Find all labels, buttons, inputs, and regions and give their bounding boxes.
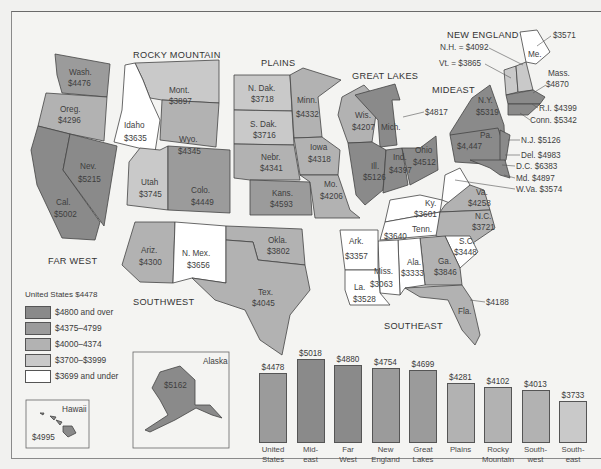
- label-wis: Wis.: [355, 111, 371, 120]
- bar: [409, 370, 437, 443]
- value-wis: $4207: [352, 123, 375, 132]
- value-ind: $4397: [389, 166, 412, 175]
- label-ohio: Ohio: [415, 146, 433, 155]
- value-ga: $3846: [434, 268, 457, 277]
- legend-label: $3699 and under: [55, 371, 118, 381]
- label-mass: Mass.: [548, 69, 570, 78]
- region-far-west: FAR WEST: [48, 256, 97, 266]
- state-ndak: [234, 75, 292, 111]
- region-mideast: MIDEAST: [432, 85, 475, 95]
- label-idaho: Idaho: [124, 121, 145, 130]
- bar-column: $3733: [555, 391, 591, 443]
- bar-column: $4281: [443, 373, 479, 443]
- value-ky: $3601: [414, 210, 437, 219]
- label-utah: Utah: [141, 178, 159, 187]
- label-ndak: N. Dak.: [248, 84, 275, 93]
- label-ark: Ark.: [349, 237, 364, 246]
- label-iowa: Iowa: [310, 143, 328, 152]
- value-miss: $3063: [370, 280, 393, 289]
- map-legend: United States $4478 $4800 and over $4375…: [25, 290, 118, 384]
- region-southwest: SOUTHWEST: [133, 297, 194, 307]
- state-ark: [340, 230, 378, 270]
- state-alaska: [145, 366, 222, 432]
- legend-item: $3699 and under: [25, 368, 118, 384]
- value-hawaii: $4995: [32, 433, 55, 442]
- bar: [372, 368, 400, 443]
- label-ariz: Ariz.: [141, 246, 157, 255]
- value-alaska: $5162: [164, 381, 187, 390]
- state-conn-ri: [508, 104, 540, 115]
- bar-column: $4013: [518, 380, 554, 443]
- label-minn: Minn.: [297, 96, 317, 105]
- bar: [559, 401, 587, 443]
- bar-value-label: $4013: [518, 380, 554, 389]
- value-la: $3528: [353, 295, 376, 304]
- value-ill: $5126: [363, 173, 386, 182]
- bar-value-label: $5018: [293, 349, 329, 358]
- legend-swatch: [25, 338, 51, 351]
- regional-bar-chart: $4478UnitedStates$5018Mid-east$4880FarWe…: [255, 365, 595, 465]
- bar-column: $4102: [480, 377, 516, 443]
- value-tex: $4045: [252, 299, 275, 308]
- legend-swatch: [25, 306, 51, 319]
- legend-swatch: [25, 322, 51, 335]
- label-ny: N.Y.: [478, 96, 493, 105]
- value-nebr: $4341: [260, 164, 283, 173]
- bar: [447, 383, 475, 443]
- label-nc: N.C.: [475, 212, 491, 221]
- label-tenn: Tenn.: [412, 225, 432, 234]
- label-dc: D.C. $6383: [516, 162, 558, 171]
- value-minn: $4332: [296, 110, 319, 119]
- label-ga: Ga.: [438, 257, 451, 266]
- label-miss: Miss.: [374, 267, 393, 276]
- value-mich: $4817: [425, 108, 448, 117]
- value-wash: $4476: [68, 79, 91, 88]
- region-great-lakes: GREAT LAKES: [352, 71, 418, 81]
- value-ny: $5319: [476, 108, 499, 117]
- bar: [484, 387, 512, 443]
- label-wva: W.Va. $3574: [516, 185, 563, 194]
- value-iowa: $4318: [308, 155, 331, 164]
- bar-value-label: $4102: [480, 377, 516, 386]
- label-ill: Ill.: [371, 162, 379, 171]
- label-mo: Mo.: [324, 180, 338, 189]
- label-ky: Ky.: [425, 199, 436, 208]
- value-colo: $4449: [191, 198, 214, 207]
- label-alaska: Alaska: [203, 357, 228, 366]
- bar-value-label: $4754: [368, 358, 404, 367]
- value-mo: $4206: [320, 192, 343, 201]
- legend-item: $4375–4799: [25, 320, 118, 336]
- value-nc: $3721: [472, 223, 495, 232]
- label-kans: Kans.: [272, 189, 293, 198]
- label-va: Va.: [476, 188, 488, 197]
- label-del: Del. $4983: [521, 151, 561, 160]
- bar-category-label: South-east: [551, 445, 595, 465]
- state-vt: [504, 66, 518, 95]
- value-mass: $4870: [546, 80, 569, 89]
- value-sdak: $3716: [253, 131, 276, 140]
- value-ark: $3357: [345, 252, 368, 261]
- bar: [297, 359, 325, 443]
- bar-value-label: $4880: [330, 355, 366, 364]
- value-pa: $4,447: [457, 142, 482, 151]
- label-ind: Ind.: [393, 153, 407, 162]
- value-nmex: $3656: [187, 261, 210, 270]
- legend-label: $4800 and over: [55, 307, 113, 317]
- value-va: $4258: [468, 199, 491, 208]
- bar-column: $4880: [330, 355, 366, 443]
- label-okla: Okla.: [268, 236, 287, 245]
- legend-label: $3700–$3999: [55, 355, 106, 365]
- region-new-england: NEW ENGLAND: [447, 30, 519, 40]
- label-me: Me.: [528, 50, 542, 59]
- label-pa: Pa.: [480, 131, 492, 140]
- label-wash: Wash.: [69, 68, 92, 77]
- value-cal: $5002: [54, 210, 77, 219]
- label-nj: N.J. $5126: [521, 136, 561, 145]
- value-nev: $5215: [78, 175, 101, 184]
- value-utah: $3745: [139, 190, 162, 199]
- value-ala: $3333: [401, 269, 424, 278]
- region-rocky-mountain: ROCKY MOUNTAIN: [133, 50, 221, 60]
- bar-column: $4754: [368, 358, 404, 443]
- bar: [334, 365, 362, 443]
- value-okla: $3802: [267, 247, 290, 256]
